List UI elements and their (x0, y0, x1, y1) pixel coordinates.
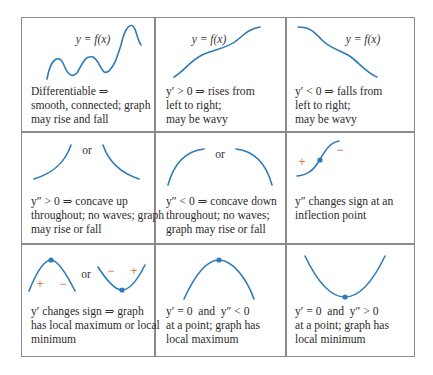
local-min-dot (342, 294, 347, 299)
cell-decreasing: y = f(x) y′ < 0 ⇒ falls from left to rig… (285, 17, 415, 131)
cell-concave-up: or y″ > 0 ⇒ concave up throughout; no wa… (21, 131, 154, 243)
caption: y′ < 0 ⇒ falls from left to right; may b… (295, 85, 382, 128)
cell-inflection-point: + − y″ changes sign at an inflection poi… (285, 131, 415, 243)
cell-local-minimum: y′ = 0 and y″ > 0 at a point; graph has … (285, 243, 415, 357)
cell-local-extremum: + − or − + y′ changes sign ⇒ graph has l… (21, 243, 154, 357)
caption: y″ changes sign at an inflection point (295, 195, 393, 223)
caption: y″ > 0 ⇒ concave up throughout; no waves… (31, 195, 164, 238)
cell-increasing: y = f(x) y′ > 0 ⇒ rises from left to rig… (154, 17, 285, 131)
or-connector: or (215, 148, 225, 160)
caption: Differentiable ⇒ smooth, connected; grap… (31, 85, 150, 128)
local-min-curve (305, 256, 385, 297)
caption: y′ = 0 and y″ < 0 at a point; graph has … (166, 305, 260, 348)
minus-sign: − (107, 264, 114, 278)
local-min-curve (98, 265, 145, 290)
function-label: y = f(x) (75, 33, 111, 46)
concave-up-rising-curve (34, 145, 71, 179)
caption: y′ changes sign ⇒ graph has local maximu… (31, 305, 160, 348)
cell-local-maximum: y′ = 0 and y″ < 0 at a point; graph has … (154, 243, 285, 357)
local-max-curve (184, 260, 254, 299)
local-max-dot (216, 257, 221, 262)
inflection-graph: + − (285, 131, 415, 243)
caption: y′ = 0 and y″ > 0 at a point; graph has … (295, 305, 389, 348)
plus-sign: + (298, 155, 305, 169)
caption: y″ < 0 ⇒ concave down throughout; no wav… (166, 195, 277, 238)
function-label: y = f(x) (345, 33, 381, 46)
minus-sign: − (59, 277, 66, 291)
caption: y′ > 0 ⇒ rises from left to right; may b… (166, 85, 255, 128)
plus-sign: + (36, 277, 43, 291)
function-label: y = f(x) (191, 33, 227, 46)
plus-sign: + (130, 264, 137, 278)
cell-differentiable: y = f(x) Differentiable ⇒ smooth, connec… (21, 17, 154, 131)
or-connector: or (82, 144, 92, 156)
inflection-point-dot (317, 157, 322, 162)
concave-up-falling-curve (103, 145, 139, 179)
local-min-dot (119, 287, 124, 292)
or-connector: or (81, 268, 91, 280)
cell-concave-down: or y″ < 0 ⇒ concave down throughout; no … (154, 131, 285, 243)
minus-sign: − (336, 143, 343, 157)
concave-down-falling-curve (236, 149, 272, 185)
local-max-dot (48, 257, 53, 262)
concave-down-rising-curve (168, 149, 204, 185)
